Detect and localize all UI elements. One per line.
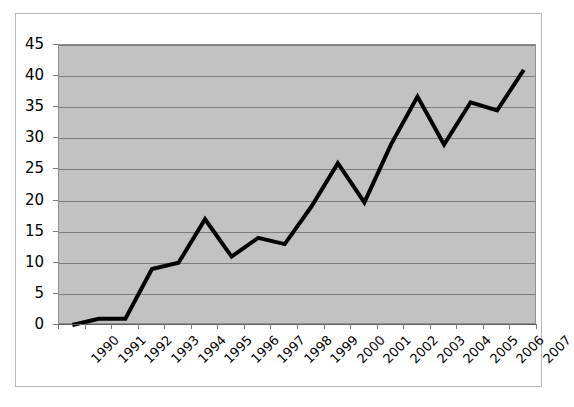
- y-axis-tick-label: 30: [25, 130, 44, 145]
- y-axis-tick-mark: [53, 75, 58, 76]
- x-axis-tick-mark: [297, 324, 298, 329]
- y-axis-tick-label: 20: [25, 192, 44, 207]
- x-axis-tick-mark: [509, 324, 510, 329]
- x-axis-tick-mark: [138, 324, 139, 329]
- line-series-path: [72, 70, 523, 325]
- y-axis-tick-mark: [53, 168, 58, 169]
- x-axis-tick-mark: [111, 324, 112, 329]
- plot-area: [58, 44, 536, 324]
- x-axis-tick-label: 2005: [487, 333, 520, 366]
- y-axis-tick-mark: [53, 137, 58, 138]
- x-axis-tick-label: 2001: [381, 333, 414, 366]
- x-axis-tick-label: 2003: [434, 333, 467, 366]
- x-axis-tick-mark: [244, 324, 245, 329]
- x-axis-tick-label: 1998: [301, 333, 334, 366]
- x-axis-tick-label: 1999: [328, 333, 361, 366]
- y-axis-tick-label: 5: [34, 285, 44, 300]
- x-axis-tick-mark: [430, 324, 431, 329]
- x-axis-tick-mark: [217, 324, 218, 329]
- x-axis-tick-mark: [85, 324, 86, 329]
- y-axis-tick-mark: [53, 293, 58, 294]
- x-axis-tick-label: 2000: [355, 333, 388, 366]
- x-axis-tick-mark: [164, 324, 165, 329]
- y-axis-tick-label: 35: [25, 99, 44, 114]
- x-axis-tick-mark: [191, 324, 192, 329]
- y-axis-tick-mark: [53, 231, 58, 232]
- x-axis-tick-label: 2004: [461, 333, 494, 366]
- y-axis-tick-label: 25: [25, 161, 44, 176]
- y-axis-tick-mark: [53, 44, 58, 45]
- y-axis-tick-mark: [53, 262, 58, 263]
- x-axis-tick-label: 2006: [514, 333, 547, 366]
- x-axis-tick-mark: [456, 324, 457, 329]
- x-axis-tick-mark: [377, 324, 378, 329]
- x-axis-tick-mark: [270, 324, 271, 329]
- y-axis-tick-label: 40: [25, 68, 44, 83]
- x-axis-tick-label: 2002: [408, 333, 441, 366]
- x-axis-tick-mark: [403, 324, 404, 329]
- x-axis-tick-mark: [350, 324, 351, 329]
- x-axis-tick-label: 1994: [195, 333, 228, 366]
- x-axis-tick-label: 2007: [540, 333, 573, 366]
- y-axis-tick-label: 45: [25, 37, 44, 52]
- x-axis-tick-label: 1997: [275, 333, 308, 366]
- x-axis-tick-label: 1990: [89, 333, 122, 366]
- x-axis-tick-label: 1991: [116, 333, 149, 366]
- x-axis-tick-label: 1992: [142, 333, 175, 366]
- y-axis-tick-label: 0: [34, 317, 44, 332]
- x-axis-tick-mark: [536, 324, 537, 329]
- y-axis-tick-mark: [53, 106, 58, 107]
- x-axis-tick-mark: [58, 324, 59, 329]
- x-axis-tick-label: 1996: [248, 333, 281, 366]
- x-axis-tick-label: 1995: [222, 333, 255, 366]
- x-axis-tick-label: 1993: [169, 333, 202, 366]
- chart-frame: 051015202530354045 199019911992199319941…: [15, 13, 542, 387]
- x-axis-tick-mark: [324, 324, 325, 329]
- y-axis-tick-mark: [53, 200, 58, 201]
- x-axis-tick-mark: [483, 324, 484, 329]
- y-axis-tick-label: 15: [25, 223, 44, 238]
- y-axis-tick-label: 10: [25, 254, 44, 269]
- line-series-svg: [59, 45, 537, 325]
